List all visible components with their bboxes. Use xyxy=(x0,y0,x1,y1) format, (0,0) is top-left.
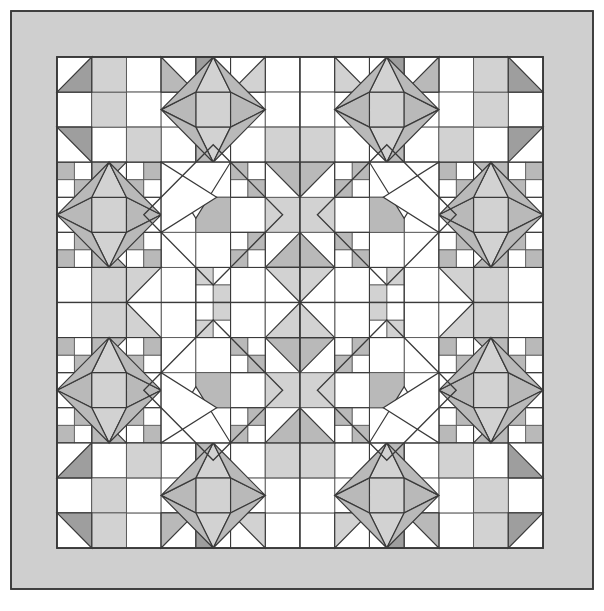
grid-cell xyxy=(369,232,404,267)
patch-light xyxy=(300,443,335,478)
grid-cell xyxy=(265,513,300,548)
grid-cell xyxy=(92,443,127,478)
patch-light xyxy=(439,443,474,478)
grid-cell xyxy=(57,303,92,338)
grid-cell xyxy=(369,338,404,373)
star-center xyxy=(92,373,127,408)
grid-cell xyxy=(335,197,370,232)
patch-light xyxy=(300,127,335,162)
four-patch-cell xyxy=(248,425,265,443)
four-patch-cell xyxy=(508,338,525,356)
grid-cell xyxy=(300,57,335,92)
grid-cell xyxy=(161,267,196,302)
grid-cell xyxy=(126,57,161,92)
grid-cell xyxy=(57,267,92,302)
four-patch-cell xyxy=(508,250,525,268)
four-patch-cell xyxy=(335,162,352,180)
grid-cell xyxy=(474,127,509,162)
four-patch-cell xyxy=(57,250,74,268)
four-patch-cell xyxy=(456,338,473,356)
four-patch-cell xyxy=(352,180,369,198)
four-patch-cell xyxy=(126,250,143,268)
four-patch-cell xyxy=(352,408,369,426)
patch-light xyxy=(439,127,474,162)
four-patch-cell xyxy=(196,303,213,321)
star-center xyxy=(474,197,509,232)
four-patch-cell xyxy=(74,250,91,268)
grid-cell xyxy=(126,513,161,548)
grid-cell xyxy=(300,92,335,127)
four-patch-cell xyxy=(387,303,404,321)
grid-cell xyxy=(231,303,266,338)
grid-cell xyxy=(265,478,300,513)
star-center xyxy=(369,478,404,513)
grid-cell xyxy=(300,478,335,513)
four-patch-cell xyxy=(144,408,161,426)
four-patch-cell xyxy=(526,162,543,180)
quilt-diagram-svg xyxy=(0,0,604,611)
four-patch-cell xyxy=(144,355,161,373)
four-patch-cell xyxy=(144,180,161,198)
star-center xyxy=(92,197,127,232)
four-patch-cell xyxy=(231,408,248,426)
quilt-field xyxy=(57,57,543,548)
four-patch-cell xyxy=(248,162,265,180)
patch-light xyxy=(265,127,300,162)
star-center xyxy=(474,373,509,408)
grid-cell xyxy=(196,232,231,267)
grid-cell xyxy=(335,303,370,338)
four-patch-cell xyxy=(352,355,369,373)
four-patch-cell xyxy=(526,355,543,373)
grid-cell xyxy=(57,478,92,513)
four-patch-cell xyxy=(508,425,525,443)
four-patch-cell xyxy=(369,285,386,303)
four-patch-cell xyxy=(57,162,74,180)
four-patch-cell xyxy=(335,425,352,443)
quilt-block-r1c0 xyxy=(57,303,300,549)
patch-light xyxy=(92,513,127,548)
star-center xyxy=(196,478,231,513)
grid-cell xyxy=(196,338,231,373)
four-patch-cell xyxy=(439,338,456,356)
four-patch-cell xyxy=(144,162,161,180)
patch-light xyxy=(92,478,127,513)
four-patch-cell xyxy=(526,180,543,198)
grid-cell xyxy=(439,92,474,127)
grid-cell xyxy=(300,513,335,548)
grid-cell xyxy=(335,267,370,302)
four-patch-cell xyxy=(335,338,352,356)
four-patch-cell xyxy=(213,303,230,321)
four-patch-cell xyxy=(57,180,74,198)
four-patch-cell xyxy=(231,355,248,373)
patch-light xyxy=(126,127,161,162)
grid-cell xyxy=(439,478,474,513)
patch-light xyxy=(92,92,127,127)
four-patch-cell xyxy=(74,338,91,356)
patch-light xyxy=(474,92,509,127)
four-patch-cell xyxy=(526,250,543,268)
patch-light xyxy=(474,478,509,513)
grid-cell xyxy=(404,303,439,338)
patch-light xyxy=(92,267,127,302)
quilt-block-r1c1 xyxy=(300,303,543,549)
quilt-block-r0c0 xyxy=(57,57,300,303)
four-patch-cell xyxy=(144,232,161,250)
grid-cell xyxy=(508,478,543,513)
star-center xyxy=(196,92,231,127)
four-patch-cell xyxy=(248,250,265,268)
patch-light xyxy=(474,57,509,92)
four-patch-cell xyxy=(439,232,456,250)
patch-light xyxy=(92,303,127,338)
four-patch-cell xyxy=(439,162,456,180)
four-patch-cell xyxy=(456,250,473,268)
four-patch-cell xyxy=(196,285,213,303)
patch-light xyxy=(474,267,509,302)
four-patch-cell xyxy=(144,338,161,356)
four-patch-cell xyxy=(213,285,230,303)
four-patch-cell xyxy=(231,232,248,250)
four-patch-cell xyxy=(74,425,91,443)
quilt-block-r0c1 xyxy=(300,57,543,303)
grid-cell xyxy=(335,373,370,408)
four-patch-cell xyxy=(126,425,143,443)
four-patch-cell xyxy=(248,338,265,356)
